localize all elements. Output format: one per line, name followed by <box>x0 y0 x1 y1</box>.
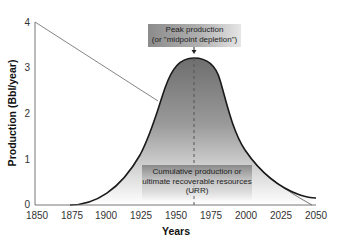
y-axis-title: Production (Bbl/year) <box>6 60 18 167</box>
urr-annotation-line3: (URR) <box>142 186 252 196</box>
y-tick-label: 3 <box>24 62 30 73</box>
y-tick-label: 2 <box>24 108 30 119</box>
y-tick-label: 4 <box>24 17 30 28</box>
urr-annotation-line1: Cumulative production or <box>142 167 252 177</box>
urr-annotation-line2: ultimate recoverable resources <box>142 177 252 187</box>
x-axis-title: Years <box>162 225 190 237</box>
x-tick-label: 2000 <box>235 210 258 221</box>
x-tick-label: 1925 <box>130 210 153 221</box>
x-tick-label: 1875 <box>61 210 84 221</box>
x-tick-label: 2025 <box>270 210 293 221</box>
urr-annotation: Cumulative production or ultimate recove… <box>142 165 252 201</box>
peak-annotation-line1: Peak production <box>148 25 241 35</box>
reference-line-left <box>35 22 158 101</box>
x-tick-label: 2050 <box>305 210 328 221</box>
y-tick-label: 0 <box>24 199 30 210</box>
peak-annotation-line2: (or "midpoint depletion") <box>148 35 241 45</box>
y-tick-label: 1 <box>24 154 30 165</box>
peak-production-annotation: Peak production (or "midpoint depletion"… <box>148 24 241 47</box>
x-tick-label: 1900 <box>95 210 118 221</box>
x-tick-label: 1975 <box>200 210 223 221</box>
x-tick-label: 1850 <box>26 210 49 221</box>
x-tick-label: 1950 <box>165 210 188 221</box>
